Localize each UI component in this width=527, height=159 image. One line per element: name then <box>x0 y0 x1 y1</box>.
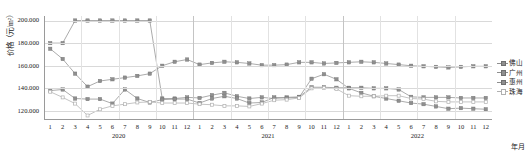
legend-marker-icon <box>497 87 508 97</box>
x-axis-year-label: 2020 <box>99 132 139 139</box>
y-axis-tick-label: 140.000 <box>0 84 42 91</box>
x-axis-year-label: 2022 <box>397 132 437 139</box>
y-axis-tick-label: 160.000 <box>0 62 42 69</box>
legend-item-label: 珠海 <box>508 87 523 97</box>
legend-item-广州[interactable]: 广州 <box>497 68 523 78</box>
x-axis-year-label: 2021 <box>248 132 288 139</box>
legend-marker-icon <box>497 77 508 87</box>
legend-marker-icon <box>497 58 508 68</box>
chart-page: 价格（元/m²） 120.000140.000160.000180.000200… <box>0 0 527 159</box>
y-axis-tick-label: 180.000 <box>0 39 42 46</box>
y-axis-tick-label: 200.000 <box>0 16 42 23</box>
plot-frame <box>44 16 492 120</box>
legend-marker-icon <box>497 68 508 78</box>
y-axis-title: 价格（元/m²） <box>4 0 15 69</box>
x-axis-tick-label: 12 <box>479 123 493 130</box>
legend-item-label: 惠州 <box>508 77 523 87</box>
legend-item-佛山[interactable]: 佛山 <box>497 58 523 68</box>
y-axis-tick-label: 120.000 <box>0 107 42 114</box>
legend-item-label: 广州 <box>508 68 523 78</box>
plot-area <box>44 16 492 120</box>
legend-item-珠海[interactable]: 珠海 <box>497 87 523 97</box>
x-axis-title: 年月 <box>511 141 525 151</box>
legend-item-label: 佛山 <box>508 58 523 68</box>
legend-item-惠州[interactable]: 惠州 <box>497 77 523 87</box>
chart-legend: 佛山广州惠州珠海 <box>497 58 523 96</box>
